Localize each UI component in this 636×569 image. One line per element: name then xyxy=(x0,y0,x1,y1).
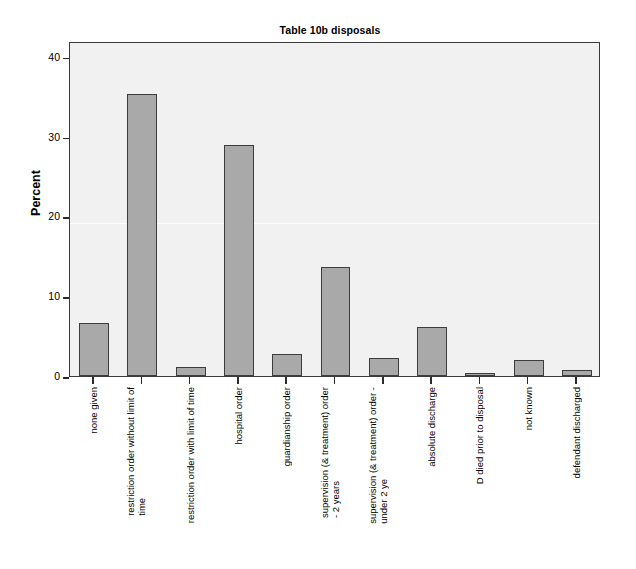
x-axis-tick-mark xyxy=(285,377,287,384)
y-axis-tick-mark xyxy=(63,377,69,379)
bar xyxy=(562,370,592,376)
plot-inner xyxy=(70,43,599,376)
x-axis-tick-mark xyxy=(189,377,191,384)
bar xyxy=(224,145,254,376)
chart-title: Table 10b disposals xyxy=(60,24,600,36)
bar xyxy=(272,354,302,376)
bar xyxy=(369,358,399,376)
bar xyxy=(79,323,109,376)
y-axis-tick: 30 xyxy=(0,138,69,139)
x-axis-tick-mark xyxy=(430,377,432,384)
x-axis-tick-label: D died prior to disposal xyxy=(474,387,485,484)
x-axis-tick-label: supervision (& treatment) order -under 2… xyxy=(367,387,389,524)
x-axis-tick-label: hospital order xyxy=(233,387,244,445)
x-axis-tick-mark xyxy=(382,377,384,384)
x-axis-tick-mark xyxy=(334,377,336,384)
bar xyxy=(465,373,495,376)
x-axis-tick-label: guardianship order xyxy=(281,387,292,466)
y-axis-tick: 10 xyxy=(0,297,69,298)
bar xyxy=(514,360,544,376)
x-axis-tick-mark xyxy=(92,377,94,384)
bar xyxy=(417,327,447,376)
x-axis-tick-label: restriction order with limit of time xyxy=(185,387,196,523)
y-axis-tick-label: 0 xyxy=(54,370,60,382)
y-axis-tick: 20 xyxy=(0,217,69,218)
x-axis-tick-label: defendant discharged xyxy=(571,387,582,478)
plot-area xyxy=(69,42,600,377)
bar xyxy=(176,367,206,376)
x-axis-tick-label: restriction order without limit oftime xyxy=(125,387,147,516)
y-axis-title: Percent xyxy=(29,151,43,235)
bar xyxy=(127,94,157,376)
y-axis-tick-label: 20 xyxy=(48,210,60,222)
x-axis-tick-label: not known xyxy=(523,387,534,430)
y-axis-tick-label: 30 xyxy=(48,131,60,143)
x-axis-tick-label: supervision (& treatment) order- 2 years xyxy=(319,387,341,518)
y-axis-tick-label: 10 xyxy=(48,290,60,302)
x-axis-tick-label: none given xyxy=(88,387,99,433)
x-axis-tick-mark xyxy=(527,377,529,384)
x-axis-tick-mark xyxy=(237,377,239,384)
x-axis-tick-mark xyxy=(575,377,577,384)
bar xyxy=(321,267,351,376)
y-axis-tick: 40 xyxy=(0,58,69,59)
x-axis-tick-mark xyxy=(141,377,143,384)
x-axis-tick-mark xyxy=(479,377,481,384)
y-axis-tick: 0 xyxy=(0,377,69,378)
x-axis-tick-label: absolute discharge xyxy=(426,387,437,467)
y-axis-tick-label: 40 xyxy=(48,51,60,63)
bar-chart: Table 10b disposals Percent 010203040 no… xyxy=(0,0,636,569)
bars-layer xyxy=(70,43,599,376)
